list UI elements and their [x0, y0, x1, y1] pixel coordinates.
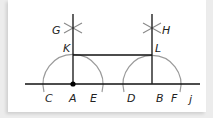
label-j: j: [187, 93, 193, 106]
label-f: F: [171, 92, 178, 105]
label-e: E: [90, 92, 97, 105]
label-h: H: [162, 24, 170, 37]
label-a: A: [68, 92, 77, 105]
label-l: L: [155, 42, 161, 55]
label-k: K: [63, 42, 71, 55]
point-a-dot: [70, 81, 75, 86]
label-g: G: [52, 24, 61, 37]
construction-diagram: G H K L C A E D B F j: [0, 0, 213, 118]
label-c: C: [45, 92, 53, 105]
label-b: B: [156, 92, 164, 105]
label-d: D: [127, 92, 135, 105]
